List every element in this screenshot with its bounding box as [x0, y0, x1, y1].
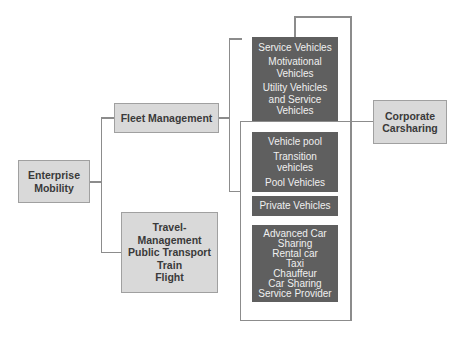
vehicle-group-pool: Vehicle pool Transition vehicles Pool Ve…	[252, 132, 338, 192]
group-line: Private Vehicles	[259, 200, 330, 212]
node-line: Public Transport	[128, 246, 211, 259]
connector-branch-trunk	[101, 117, 103, 253]
connector-to-fleet	[101, 117, 115, 119]
node-line: Management	[137, 234, 201, 247]
node-label: Fleet Management	[121, 112, 213, 125]
node-line: Train	[157, 259, 182, 272]
group-line: and Service	[269, 94, 322, 106]
connector-top-loop-left	[294, 16, 296, 38]
group-line: Taxi	[286, 259, 304, 269]
group-line: Advanced Car	[263, 229, 326, 239]
vehicle-group-private: Private Vehicles	[252, 196, 338, 216]
vehicle-group-external: Advanced Car Sharing Rental car Taxi Cha…	[252, 225, 338, 302]
connector-top-loop-top	[294, 16, 352, 18]
group-line: Car Sharing	[268, 279, 321, 289]
enterprise-mobility-node: Enterprise Mobility	[18, 160, 90, 203]
connector-to-travel	[101, 252, 122, 254]
node-line: Carsharing	[382, 122, 437, 135]
group-line: Vehicles	[276, 68, 313, 80]
travel-management-node: Travel- Management Public Transport Trai…	[121, 212, 218, 293]
connector-fleet-stub	[218, 117, 229, 119]
group-line: Pool Vehicles	[265, 177, 325, 189]
group-line: Sharing	[278, 239, 312, 249]
group-line: Service Vehicles	[258, 42, 331, 54]
node-line: Travel-	[153, 221, 187, 234]
group-line: Motivational	[268, 56, 321, 68]
group-line: Rental car	[272, 249, 318, 259]
node-line: Flight	[155, 271, 184, 284]
group-line: Transition	[273, 151, 317, 163]
vehicle-group-service: Service Vehicles Motivational Vehicles U…	[252, 37, 338, 121]
node-line: Corporate	[385, 110, 435, 123]
group-line: Utility Vehicles	[263, 82, 327, 94]
group-line: Service Provider	[258, 289, 331, 299]
connector-bracket-top	[229, 38, 242, 40]
connector-fleet-bracket	[229, 38, 231, 192]
group-line: Chauffeur	[273, 269, 317, 279]
fleet-management-node: Fleet Management	[114, 103, 219, 133]
group-line: Vehicles	[276, 105, 313, 117]
group-line: Vehicle pool	[268, 136, 322, 148]
corporate-carsharing-node: Corporate Carsharing	[373, 100, 447, 144]
connector-to-corporate	[350, 121, 373, 123]
group-line: vehicles	[277, 162, 313, 174]
connector-bracket-bottom	[229, 191, 241, 193]
node-label: Enterprise Mobility	[25, 169, 83, 194]
